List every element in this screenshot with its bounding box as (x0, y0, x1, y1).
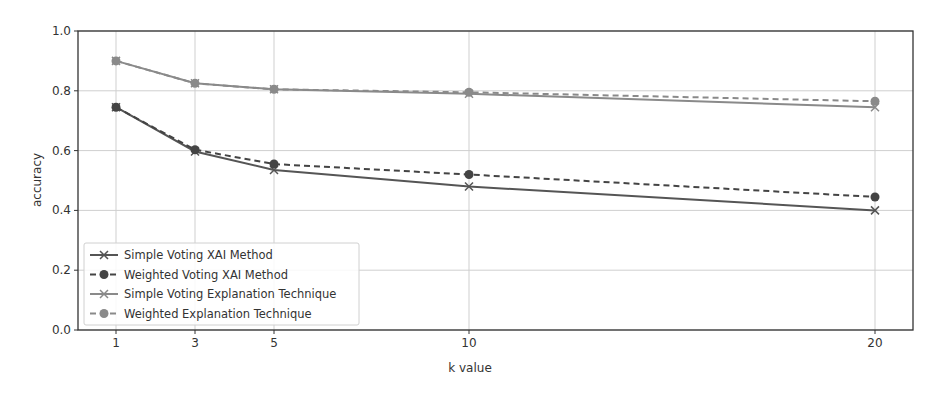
y-tick-label: 0.6 (52, 144, 71, 158)
y-tick-label: 0.4 (52, 203, 71, 217)
legend-item: Weighted Explanation Technique (90, 307, 312, 321)
circle-marker (871, 97, 880, 106)
circle-marker (465, 88, 474, 97)
series-0 (112, 103, 879, 214)
y-axis-label: accuracy (30, 153, 44, 207)
series-3 (112, 56, 880, 105)
circle-marker (871, 192, 880, 201)
x-tick-label: 20 (867, 336, 882, 350)
y-tick-label: 1.0 (52, 24, 71, 38)
legend-label: Weighted Explanation Technique (124, 307, 312, 321)
circle-marker (112, 56, 121, 65)
circle-marker (191, 145, 200, 154)
legend-label: Simple Voting Explanation Technique (124, 287, 336, 301)
x-tick-label: 5 (270, 336, 278, 350)
y-tick-label: 0.8 (52, 84, 71, 98)
x-axis-ticks: 1351020 (112, 330, 882, 350)
circle-marker (100, 270, 109, 279)
x-tick-label: 1 (112, 336, 120, 350)
circle-marker (270, 85, 279, 94)
series-lines (112, 56, 880, 214)
legend-label: Weighted Voting XAI Method (124, 268, 288, 282)
circle-marker (270, 160, 279, 169)
line-chart: 0.00.20.40.60.81.0 1351020 k value accur… (0, 0, 941, 394)
circle-marker (100, 309, 109, 318)
legend: Simple Voting XAI MethodWeighted Voting … (84, 243, 359, 325)
y-tick-label: 0.0 (52, 323, 71, 337)
series-2 (112, 57, 879, 111)
x-axis-label: k value (448, 361, 492, 375)
circle-marker (112, 103, 121, 112)
legend-item: Simple Voting Explanation Technique (90, 287, 336, 301)
y-axis-ticks: 0.00.20.40.60.81.0 (52, 24, 78, 337)
x-tick-label: 3 (191, 336, 199, 350)
y-tick-label: 0.2 (52, 263, 71, 277)
series-1 (112, 103, 880, 202)
x-tick-label: 10 (461, 336, 476, 350)
circle-marker (191, 79, 200, 88)
legend-label: Simple Voting XAI Method (124, 248, 273, 262)
circle-marker (465, 170, 474, 179)
